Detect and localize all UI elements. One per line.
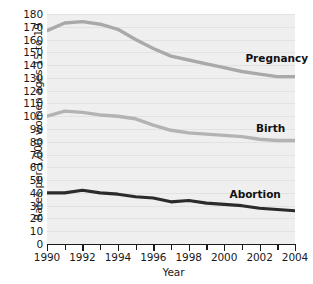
x-tick-1992 [82,244,83,251]
y-tick-label: 40 [30,187,43,199]
x-tick-1990 [47,244,48,251]
x-tick-1993 [100,244,101,250]
x-tick-2000 [224,244,225,251]
x-tick-1995 [136,244,137,250]
x-tick-1996 [153,244,154,251]
x-tick-2003 [277,244,278,250]
x-tick-label: 1998 [176,251,202,263]
y-tick-label: 120 [23,85,43,97]
y-tick-label: 20 [30,212,43,224]
y-tick-label: 90 [30,123,43,135]
y-axis-tick-labels: 1801701601501401301201101009080706050403… [0,0,47,284]
y-tick-label: 30 [30,200,43,212]
y-tick-label: 140 [23,59,43,71]
x-tick-label: 1992 [69,251,95,263]
y-tick-label: 80 [30,136,43,148]
series-label-pregnancy: Pregnancy [245,52,308,64]
y-tick-label: 50 [30,174,43,186]
x-tick-label: 1994 [105,251,131,263]
y-tick-label: 150 [23,46,43,58]
series-label-abortion: Abortion [230,188,281,200]
y-tick-label: 180 [23,8,43,20]
x-axis-title: Year [0,266,313,278]
x-tick-2004 [295,244,296,251]
series-label-birth: Birth [256,122,285,134]
x-tick-label: 1990 [34,251,60,263]
x-tick-1997 [171,244,172,250]
x-tick-label: 1996 [140,251,166,263]
x-tick-1991 [65,244,66,250]
x-tick-label: 2002 [246,251,272,263]
y-tick-label: 170 [23,21,43,33]
y-tick-label: 60 [30,161,43,173]
y-tick-label: 70 [30,149,43,161]
x-tick-2001 [242,244,243,250]
x-tick-1994 [118,244,119,251]
y-tick-label: 100 [23,110,43,122]
teen-pregnancy-rates-chart: Rates per 1,000 women ages 15 to 19 1801… [0,0,313,284]
x-tick-label: 2004 [282,251,308,263]
series-line-pregnancy [47,22,295,77]
y-tick-label: 160 [23,34,43,46]
x-tick-1999 [206,244,207,250]
x-tick-1998 [189,244,190,251]
y-tick-label: 10 [30,225,43,237]
x-tick-2002 [260,244,261,251]
x-tick-label: 2000 [211,251,237,263]
y-tick-label: 0 [36,238,43,250]
y-tick-label: 130 [23,72,43,84]
y-tick-label: 110 [23,97,43,109]
